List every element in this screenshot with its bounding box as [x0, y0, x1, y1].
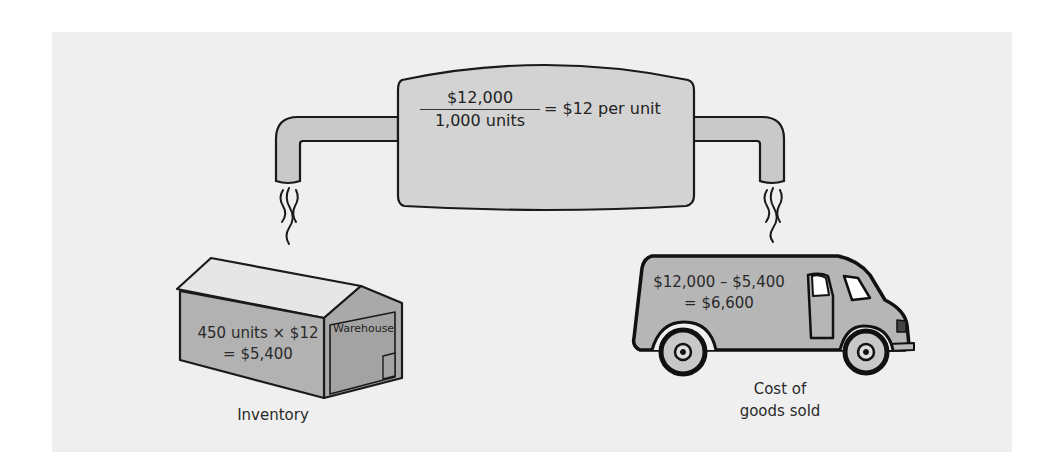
cogs-caption: Cost of goods sold	[720, 378, 840, 422]
fraction-denominator: 1,000 units	[420, 110, 540, 131]
inventory-calc-line1: 450 units × $12	[178, 323, 338, 344]
cogs-calc-line1: $12,000 – $5,400	[646, 272, 792, 293]
warehouse-sign: Warehouse	[333, 322, 394, 335]
tank-icon	[398, 65, 694, 210]
inventory-calc-line2: = $5,400	[178, 344, 338, 365]
cogs-caption-line1: Cost of	[720, 378, 840, 400]
unit-cost-result: = $12 per unit	[544, 99, 661, 118]
cogs-calculation: $12,000 – $5,400 = $6,600	[646, 272, 792, 314]
cost-flow-illustration	[0, 0, 1063, 466]
unit-cost-fraction: $12,000 1,000 units	[420, 88, 540, 131]
inventory-caption: Inventory	[228, 406, 318, 424]
left-pipe-icon	[276, 117, 398, 183]
cogs-caption-line2: goods sold	[720, 400, 840, 422]
right-drip-icon	[765, 188, 782, 242]
right-pipe-icon	[688, 117, 784, 183]
inventory-calculation: 450 units × $12 = $5,400	[178, 323, 338, 365]
fraction-numerator: $12,000	[420, 88, 540, 110]
cogs-calc-line2: = $6,600	[646, 293, 792, 314]
left-drip-icon	[281, 188, 298, 244]
